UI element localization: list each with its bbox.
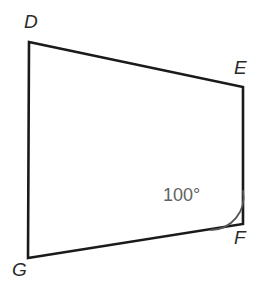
angle-measure-label-f: 100°: [163, 186, 200, 204]
geometry-figure-canvas: D E F G 100°: [0, 0, 260, 282]
vertex-label-d: D: [24, 12, 38, 31]
vertex-label-e: E: [234, 58, 247, 77]
vertex-label-g: G: [12, 260, 27, 279]
quadrilateral-DEFG-drawing: [0, 0, 260, 282]
vertex-label-f: F: [234, 228, 246, 247]
quadrilateral-outline-path: [28, 42, 243, 258]
